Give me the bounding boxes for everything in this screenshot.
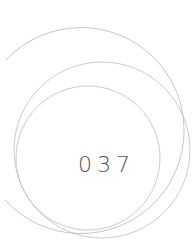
- page-number: 037: [78, 152, 135, 178]
- decorative-rings: [0, 0, 195, 250]
